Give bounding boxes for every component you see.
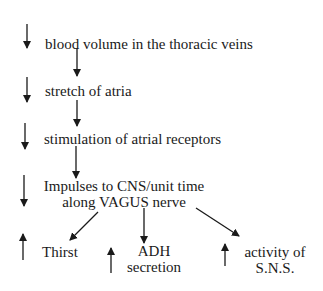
outcome-adh-line2: secretion [122, 259, 186, 275]
outcome-thirst: Thirst [42, 244, 78, 260]
outcome-adh-line1: ADH [122, 243, 186, 259]
branch-arrow-thirst-icon [70, 212, 98, 240]
step-blood-volume: blood volume in the thoracic veins [45, 36, 253, 52]
step-impulses-line1: Impulses to CNS/unit time [36, 178, 212, 194]
branch-arrow-sns-icon [196, 208, 239, 236]
step-atrial-receptors: stimulation of atrial receptors [44, 131, 221, 147]
step-impulses-line2: along VAGUS nerve [36, 194, 212, 210]
outcome-sns-line1: activity of [240, 244, 310, 260]
outcome-sns-line2: S.N.S. [240, 260, 310, 276]
step-stretch-of-atria: stretch of atria [45, 83, 132, 99]
diagram-canvas: blood volume in the thoracic veins stret… [0, 0, 323, 291]
